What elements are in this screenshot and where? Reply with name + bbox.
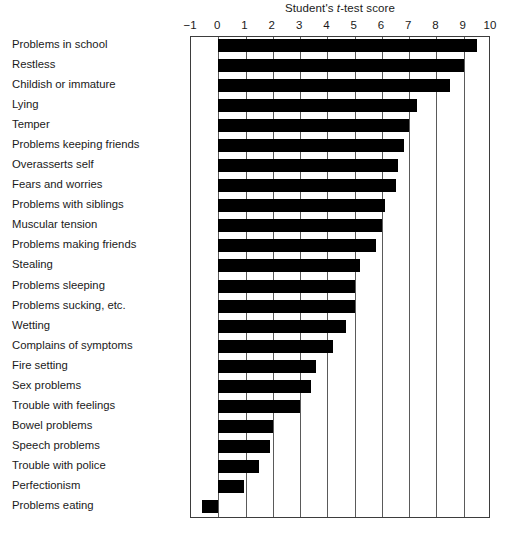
bar: [218, 259, 360, 272]
bar: [218, 280, 354, 293]
x-tick-label: −1: [178, 19, 202, 31]
x-tick-label: 1: [233, 19, 257, 31]
bars-layer: [191, 37, 489, 517]
x-tick-label: 9: [451, 19, 475, 31]
category-label: Bowel problems: [0, 419, 172, 432]
bar: [218, 480, 244, 493]
bar: [218, 380, 311, 393]
category-label: Stealing: [0, 258, 172, 271]
x-tick-label: 7: [396, 19, 420, 31]
bar: [218, 300, 354, 313]
bar: [218, 400, 300, 413]
category-label: Trouble with police: [0, 459, 172, 472]
chart-title-before: Student's: [285, 2, 337, 14]
bar: [218, 179, 395, 192]
bar: [218, 139, 403, 152]
bar-chart-figure: Student's t-test score −1012345678910 Pr…: [0, 0, 505, 533]
category-label: Wetting: [0, 319, 172, 332]
x-tick-label: 3: [287, 19, 311, 31]
bar: [218, 59, 463, 72]
x-tick-label: 4: [314, 19, 338, 31]
category-label: Fears and worries: [0, 178, 172, 191]
category-label: Perfectionism: [0, 479, 172, 492]
category-label: Problems eating: [0, 499, 172, 512]
category-label: Trouble with feelings: [0, 399, 172, 412]
category-label: Problems with siblings: [0, 198, 172, 211]
bar: [218, 420, 273, 433]
category-label: Restless: [0, 58, 172, 71]
x-tick-label: 6: [369, 19, 393, 31]
x-axis-tick-labels: −1012345678910: [190, 19, 490, 33]
category-label: Complains of symptoms: [0, 339, 172, 352]
category-label: Childish or immature: [0, 78, 172, 91]
bar: [218, 39, 477, 52]
category-label: Speech problems: [0, 439, 172, 452]
bar: [218, 320, 346, 333]
bar: [218, 219, 382, 232]
category-label: Problems making friends: [0, 238, 172, 251]
bar: [218, 99, 417, 112]
category-label: Problems sleeping: [0, 279, 172, 292]
bar: [218, 79, 450, 92]
category-label: Temper: [0, 118, 172, 131]
category-label: Sex problems: [0, 379, 172, 392]
chart-title-after: -test score: [340, 2, 395, 14]
y-axis-category-labels: Problems in schoolRestlessChildish or im…: [0, 36, 184, 518]
x-tick-label: 0: [205, 19, 229, 31]
category-label: Problems keeping friends: [0, 138, 172, 151]
chart-title: Student's t-test score: [190, 2, 490, 14]
bar: [218, 119, 409, 132]
bar: [218, 460, 259, 473]
category-label: Lying: [0, 98, 172, 111]
bar: [218, 440, 270, 453]
bar: [202, 500, 218, 513]
bar: [218, 360, 316, 373]
category-label: Fire setting: [0, 359, 172, 372]
x-tick-label: 2: [260, 19, 284, 31]
category-label: Problems sucking, etc.: [0, 299, 172, 312]
bar: [218, 159, 398, 172]
bar: [218, 239, 376, 252]
category-label: Muscular tension: [0, 218, 172, 231]
x-tick-label: 10: [478, 19, 502, 31]
category-label: Overasserts self: [0, 158, 172, 171]
bar: [218, 199, 384, 212]
x-tick-label: 5: [342, 19, 366, 31]
category-label: Problems in school: [0, 38, 172, 51]
bar: [218, 340, 333, 353]
plot-area: [190, 36, 490, 518]
x-tick-label: 8: [423, 19, 447, 31]
